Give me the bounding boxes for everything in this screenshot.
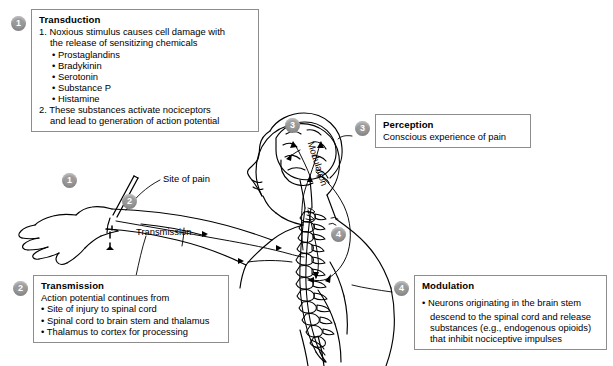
chemical-item: • Prostaglandins <box>39 49 251 60</box>
transmission-path-label: Transmission <box>136 226 191 237</box>
figure-badge-1: 1 <box>62 173 77 188</box>
transmission-step: • Spinal cord to brain stem and thalamus <box>41 315 221 326</box>
callout-badge-1: 1 <box>11 16 26 31</box>
callout-badge-3: 3 <box>355 121 370 136</box>
perception-title: Perception <box>383 119 523 130</box>
transmission-callout-box: Transmission Action potential continues … <box>33 275 229 343</box>
transmission-steps: • Site of injury to spinal cord • Spinal… <box>41 303 221 336</box>
modulation-callout-box: Modulation • Neurons originating in the … <box>414 275 607 350</box>
perception-description: Conscious experience of pain <box>383 131 523 142</box>
transduction-step-1-cont: the release of sensitizing chemicals <box>39 37 251 48</box>
modulation-line-1: • Neurons originating in the brain stem <box>422 297 581 308</box>
transduction-step-2-cont: and lead to generation of action potenti… <box>39 115 251 126</box>
chemical-item: • Substance P <box>39 82 251 93</box>
transduction-step-2-group: 2. These substances activate nociceptors… <box>39 104 251 126</box>
diagram-canvas: Site of pain Transmission Modulation 1 2… <box>0 0 613 366</box>
transmission-title: Transmission <box>41 280 221 291</box>
callout-badge-2: 2 <box>13 281 28 296</box>
modulation-line-2: descend to the spinal cord and release <box>422 311 599 322</box>
transduction-step-1-line-1: 1. Noxious stimulus causes cell damage w… <box>39 26 225 37</box>
site-of-pain-label: Site of pain <box>163 173 210 184</box>
transmission-step: • Thalamus to cortex for processing <box>41 326 221 337</box>
perception-callout-box: Perception Conscious experience of pain <box>375 114 531 148</box>
transduction-step-1: 1. Noxious stimulus causes cell damage w… <box>39 26 251 37</box>
chemical-item: • Serotonin <box>39 71 251 82</box>
transduction-step-2: 2. These substances activate nociceptors <box>39 104 251 115</box>
modulation-line-4: that inhibit nociceptive impulses <box>422 333 599 344</box>
modulation-title: Modulation <box>422 280 599 291</box>
callout-badge-4: 4 <box>394 281 409 296</box>
transduction-callout-box: Transduction 1. Noxious stimulus causes … <box>31 9 259 132</box>
figure-badge-3: 3 <box>285 118 300 133</box>
chemical-item: • Histamine <box>39 93 251 104</box>
transmission-lead: Action potential continues from <box>41 292 221 303</box>
sensitizing-chemicals-list: • Prostaglandins • Bradykinin • Serotoni… <box>39 49 251 104</box>
transduction-title: Transduction <box>39 14 251 25</box>
transduction-steps: 1. Noxious stimulus causes cell damage w… <box>39 26 251 48</box>
modulation-bullet: • Neurons originating in the brain stem <box>422 292 599 311</box>
modulation-line-3: substances (e.g., endogenous opioids) <box>422 322 599 333</box>
figure-badge-2: 2 <box>122 194 137 209</box>
figure-badge-4: 4 <box>331 227 346 242</box>
chemical-item: • Bradykinin <box>39 60 251 71</box>
transmission-step: • Site of injury to spinal cord <box>41 303 221 314</box>
